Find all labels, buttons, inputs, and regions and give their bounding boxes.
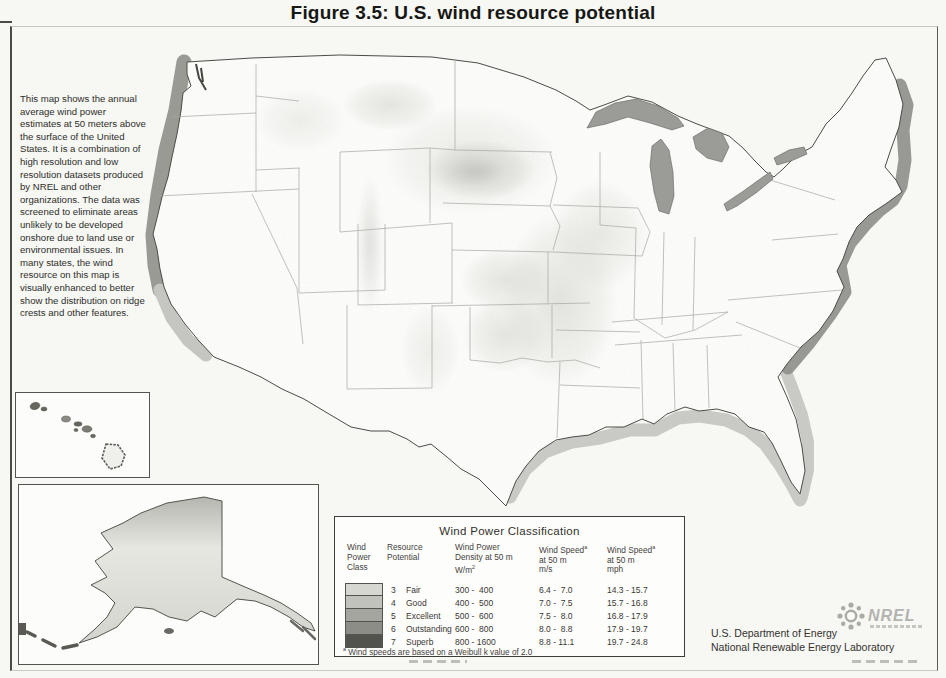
aleutian-edge-fragment: [19, 623, 26, 635]
figure-title: Figure 3.5: U.S. wind resource potential: [0, 2, 946, 24]
legend-cell-class: 5: [391, 611, 396, 621]
legend-column-header: Wind Speedaat 50 mmph: [607, 543, 655, 575]
wind-power-classification-legend: Wind Power Classification WindPowerClass…: [334, 516, 685, 657]
legend-column-header: Wind PowerDensity at 50 mW/m2: [455, 543, 513, 575]
legend-column-header: Wind Speedaat 50 mm/s: [539, 543, 587, 575]
legend-cell-speed_ms: 8.0 - 8.8: [539, 624, 573, 634]
legend-cell-speed_mph: 16.8 - 17.9: [607, 611, 648, 621]
legend-cell-speed_mph: 19.7 - 24.8: [607, 637, 648, 647]
nrel-logo-text: NREL: [868, 607, 916, 625]
attribution-line2: National Renewable Energy Laboratory: [711, 641, 894, 655]
alaska-inset: [18, 484, 319, 665]
legend-swatch-class-4: [345, 596, 383, 609]
legend-cell-density: 600 - 800: [455, 624, 493, 634]
legend-cell-speed_ms: 6.4 - 7.0: [539, 585, 573, 595]
legend-cell-speed_ms: 7.5 - 8.0: [539, 611, 573, 621]
hawaii-map: [16, 393, 149, 477]
map-description: This map shows the annual average wind p…: [20, 93, 147, 320]
scan-artifact-top-left: [0, 21, 12, 23]
legend-cell-potential: Excellent: [406, 611, 441, 621]
legend-swatch-class-6: [345, 622, 383, 635]
legend-column-header: WindPowerClass: [347, 543, 371, 572]
legend-cell-speed_ms: 8.8 - 11.1: [539, 637, 574, 647]
legend-cell-speed_ms: 7.0 - 7.5: [539, 598, 573, 608]
alaska-map: [19, 485, 318, 664]
nrel-logo-subline: [870, 625, 924, 628]
legend-cell-speed_mph: 15.7 - 16.8: [607, 598, 648, 608]
legend-title: Wind Power Classification: [335, 525, 684, 537]
aleutian-islands: [27, 632, 77, 648]
legend-cell-potential: Outstanding: [406, 624, 452, 634]
hawaii-big-island: [102, 444, 125, 469]
legend-cell-class: 3: [391, 585, 396, 595]
alaska-mainland: [79, 497, 315, 643]
scan-artifact-bottom-right: [852, 660, 918, 663]
legend-cell-potential: Good: [406, 598, 427, 608]
legend-swatch-class-5: [345, 609, 383, 622]
hawaii-inset: [15, 392, 150, 478]
legend-cell-class: 6: [391, 624, 396, 634]
legend-cell-density: 500 - 600: [455, 611, 493, 621]
legend-cell-potential: Fair: [406, 585, 421, 595]
nrel-sun-icon: [836, 601, 866, 631]
legend-cell-density: 400 - 500: [455, 598, 493, 608]
legend-cell-density: 300 - 400: [455, 585, 493, 595]
figure-page: Figure 3.5: U.S. wind resource potential…: [0, 0, 946, 678]
scan-artifact-below-legend: [409, 660, 467, 663]
legend-cell-class: 4: [391, 598, 396, 608]
legend-swatch-class-3: [345, 583, 383, 596]
legend-cell-speed_mph: 14.3 - 15.7: [607, 585, 648, 595]
kodiak-island: [164, 628, 174, 634]
legend-column-header: ResourcePotential: [387, 543, 423, 563]
legend-cell-speed_mph: 17.9 - 19.7: [607, 624, 648, 634]
nrel-logo: NREL: [836, 601, 940, 635]
legend-footnote: a Wind speeds are based on a Weibull k v…: [343, 646, 532, 657]
